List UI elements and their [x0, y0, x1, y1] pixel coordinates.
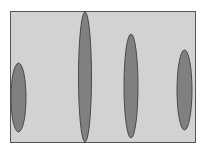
ellipse-group: [11, 12, 192, 142]
ellipse-4: [177, 50, 192, 130]
ellipse-2: [79, 12, 92, 142]
ellipse-3: [124, 34, 138, 138]
figure-root: [0, 0, 206, 152]
ellipse-1: [11, 63, 26, 132]
ellipse-layer: [0, 0, 206, 152]
